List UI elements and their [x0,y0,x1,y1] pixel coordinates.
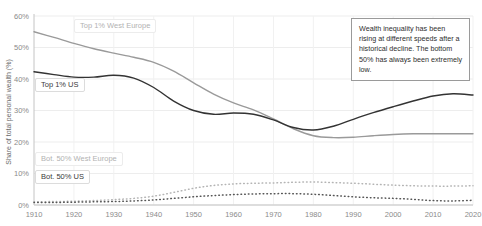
svg-text:1980: 1980 [305,210,322,219]
svg-text:30%: 30% [14,106,29,115]
svg-text:60%: 60% [14,12,29,21]
y-axis-title: Share of total personal wealth (%) [5,59,13,164]
svg-text:1910: 1910 [26,210,43,219]
svg-text:40%: 40% [14,75,29,84]
svg-text:2000: 2000 [385,210,402,219]
series-label-bot50-west-europe: Bot. 50% West Europe [35,152,123,166]
svg-text:50%: 50% [14,43,29,52]
svg-text:1960: 1960 [225,210,242,219]
annotation-textbox: Wealth inequality has been rising at dif… [351,18,470,81]
svg-text:20%: 20% [14,138,29,147]
svg-text:1930: 1930 [105,210,122,219]
svg-text:1920: 1920 [66,210,83,219]
series-label-top1-west-europe: Top 1% West Europe [74,19,156,33]
series-label-bot50-us: Bot. 50% US [35,170,90,184]
svg-text:1940: 1940 [145,210,162,219]
svg-text:1950: 1950 [185,210,202,219]
svg-text:2020: 2020 [465,210,482,219]
wealth-inequality-chart: 0%10%20%30%40%50%60% 1910192019301940195… [0,0,482,226]
svg-text:1970: 1970 [265,210,282,219]
svg-text:10%: 10% [14,169,29,178]
svg-text:1990: 1990 [345,210,362,219]
svg-text:2010: 2010 [425,210,442,219]
x-axis-ticks: 1910192019301940195019601970198019902000… [26,210,482,219]
series-label-top1-us: Top 1% US [35,78,85,92]
svg-text:0%: 0% [18,201,29,210]
y-axis-ticks: 0%10%20%30%40%50%60% [14,12,29,210]
